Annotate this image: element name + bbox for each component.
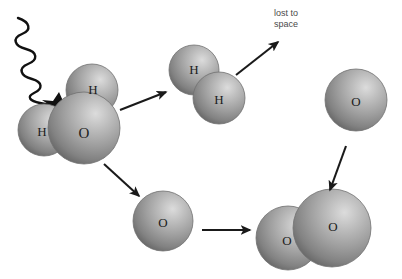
incoming-photon [16,18,59,105]
arrow-oxygen-right-down [330,146,346,190]
oxygen-atom-lower [133,191,193,251]
lost-to-space-caption: lost to space [274,8,298,30]
hydrogen-molecule [169,45,245,124]
photodissociation-diagram: O H H H H O O O O lost to space [0,0,402,279]
arrow-water-to-hydrogen [120,92,166,110]
oxygen-molecule [256,189,371,270]
arrow-hydrogen-to-space [236,42,278,75]
diagram-canvas [0,0,402,279]
oxygen-atom-right [325,69,387,131]
arrow-water-to-oxygen [104,164,139,196]
